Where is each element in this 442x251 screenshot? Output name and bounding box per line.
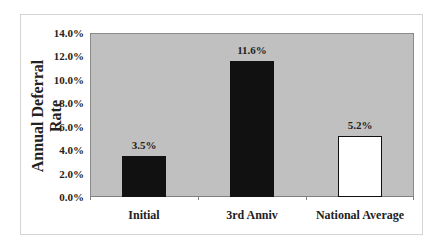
y-tick-label: 6.0%: [50, 121, 84, 133]
y-tick-label: 14.0%: [50, 27, 84, 39]
y-tick-label: 2.0%: [50, 168, 84, 180]
data-label: 11.6%: [222, 44, 282, 56]
x-tick-mark: [198, 197, 199, 200]
x-tick-mark: [90, 197, 91, 200]
bar: [338, 136, 382, 197]
x-tick-label: Initial: [89, 208, 199, 223]
bar: [230, 61, 274, 197]
y-tick-label: 10.0%: [50, 74, 84, 86]
data-label: 5.2%: [330, 119, 390, 131]
x-tick-mark: [413, 197, 414, 200]
y-axis-title-line1: Annual Deferral: [29, 41, 47, 191]
y-tick-label: 12.0%: [50, 50, 84, 62]
data-label: 3.5%: [114, 139, 174, 151]
bar: [122, 156, 166, 197]
y-tick-label: 0.0%: [50, 191, 84, 203]
x-tick-label: National Average: [305, 208, 415, 223]
x-tick-mark: [306, 197, 307, 200]
y-tick-label: 8.0%: [50, 97, 84, 109]
x-tick-label: 3rd Anniv: [197, 208, 307, 223]
y-tick-label: 4.0%: [50, 144, 84, 156]
